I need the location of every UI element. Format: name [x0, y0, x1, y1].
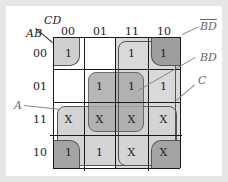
col-header: 01 [93, 26, 107, 37]
row-header: 01 [33, 81, 47, 92]
cell: X [116, 136, 147, 169]
col-header: 11 [125, 26, 139, 37]
cell [53, 70, 84, 103]
cell: 1 [53, 37, 84, 70]
cell: 1 [84, 70, 115, 103]
cell: 1 [116, 37, 147, 70]
group-label-bd-bar: BD [200, 20, 217, 33]
corner-label-cd: CD [44, 15, 61, 26]
col-header: 00 [61, 26, 75, 37]
group-label-bd: BD [200, 51, 217, 64]
cell: 1 [148, 37, 179, 70]
cell: X [148, 103, 179, 136]
row-header: 11 [33, 114, 47, 125]
group-label-c: C [198, 74, 206, 87]
cell: X [148, 136, 179, 169]
col-header: 10 [157, 26, 171, 37]
cell: X [116, 103, 147, 136]
row-header: 10 [33, 147, 47, 158]
cell [84, 37, 115, 70]
cell: X [84, 103, 115, 136]
grid-line [180, 37, 181, 168]
corner-label-ab: AB [26, 28, 42, 39]
row-header: 00 [33, 48, 47, 59]
group-label-a: A [14, 99, 22, 112]
cell: 1 [84, 136, 115, 169]
cell: 1 [53, 136, 84, 169]
